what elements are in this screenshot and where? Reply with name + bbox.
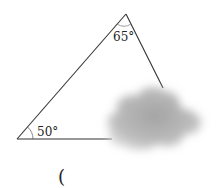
side-right bbox=[126, 14, 163, 88]
angle-arc-bottom-left bbox=[28, 127, 34, 139]
triangle-diagram: 50° 65° bbox=[0, 0, 218, 188]
angle-label-65: 65° bbox=[113, 30, 134, 44]
answer-paren: ( bbox=[58, 166, 65, 187]
angle-label-50: 50° bbox=[37, 125, 58, 139]
angle-arc-top bbox=[117, 24, 131, 26]
cloud-occluder bbox=[107, 87, 202, 150]
